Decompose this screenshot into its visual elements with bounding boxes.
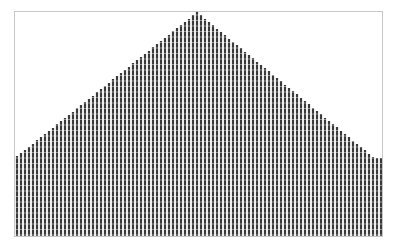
- bar: [272, 75, 274, 236]
- bar: [336, 127, 338, 236]
- bar: [260, 65, 262, 236]
- bar: [92, 96, 94, 236]
- bar: [232, 42, 234, 236]
- bar: [256, 62, 258, 236]
- bar: [116, 76, 118, 236]
- bar: [52, 128, 54, 236]
- bar: [148, 51, 150, 236]
- bar: [244, 52, 246, 236]
- gridlines: [15, 15, 382, 235]
- bar: [208, 22, 210, 236]
- bar: [36, 140, 38, 236]
- bar: [188, 19, 190, 236]
- bar: [220, 32, 222, 236]
- bar: [184, 22, 186, 236]
- bar: [312, 108, 314, 236]
- bar: [228, 39, 230, 236]
- bar: [316, 111, 318, 236]
- bar: [24, 150, 26, 236]
- bar: [68, 115, 70, 236]
- bar: [308, 104, 310, 236]
- bar: [364, 150, 366, 236]
- bar: [172, 31, 174, 236]
- bar: [268, 71, 270, 236]
- bar: [204, 19, 206, 236]
- bar: [132, 63, 134, 236]
- bar-chart: [0, 0, 394, 250]
- bar: [216, 29, 218, 236]
- bar: [276, 78, 278, 236]
- bar: [100, 89, 102, 236]
- bar: [352, 141, 354, 236]
- bar: [40, 137, 42, 236]
- bar: [300, 98, 302, 236]
- bar: [248, 55, 250, 236]
- bar: [164, 38, 166, 236]
- bar: [76, 108, 78, 236]
- bar: [288, 88, 290, 236]
- bar: [348, 137, 350, 236]
- bar: [296, 94, 298, 236]
